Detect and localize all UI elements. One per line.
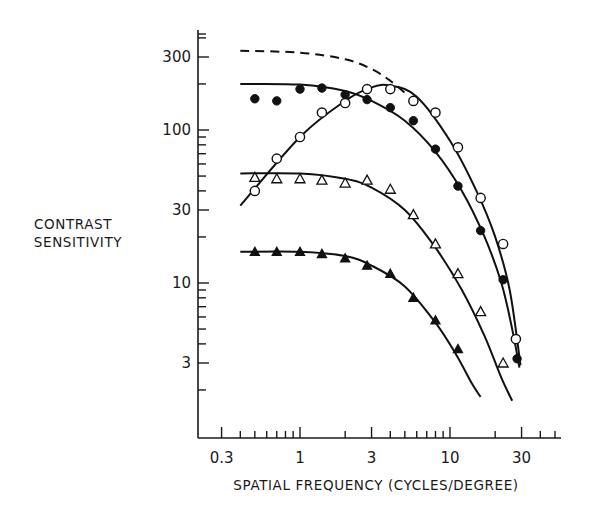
x-tick-label: 10 [440,449,459,467]
open-circle-marker [476,193,485,202]
y-tick-labels: 31030100300 [162,48,191,372]
open-circle-marker [511,334,520,343]
x-tick-label: 0.3 [210,449,234,467]
filled-circle-marker [251,95,259,103]
open-triangle-marker [385,184,395,193]
open-triangle-marker [362,175,372,184]
open-circle-marker [409,96,418,105]
open-triangle-marker [498,358,508,367]
open-triangle-marker [272,174,282,183]
filled-circle-marker [499,276,507,284]
filled-circle-marker [273,97,281,105]
open-circle-marker [250,186,259,195]
open-triangle-marker [476,307,486,316]
open-circle-marker [295,132,304,141]
open-circle-marker [453,143,462,152]
x-tick-labels: 0.3131030 [210,449,531,467]
x-axis-title: SPATIAL FREQUENCY (CYCLES/DEGREE) [233,477,518,493]
filled-circle-marker [409,117,417,125]
x-tick-label: 3 [367,449,377,467]
filled-circle-marker [386,103,394,111]
y-tick-label: 100 [162,121,191,139]
filled-circles-curve [240,84,519,368]
filled-circle-marker [341,91,349,99]
contrast-sensitivity-chart: 31030100300 0.3131030 CONTRAST SENSITIVI… [0,0,601,515]
y-axis-title-line1: CONTRAST [34,216,112,232]
axes [198,30,561,438]
y-tick-label: 10 [172,274,191,292]
open-circle-marker [362,85,371,94]
filled-circle-marker [454,182,462,190]
open-circle-marker [431,108,440,117]
open-circle-marker [499,239,508,248]
open-triangle-marker [453,269,463,278]
y-tick-label: 30 [172,201,191,219]
y-tick-label: 300 [162,48,191,66]
open-circle-marker [317,108,326,117]
x-tick-label: 30 [512,449,531,467]
y-tick-label: 3 [181,354,191,372]
fit-curves [240,51,520,401]
filled-circle-marker [431,145,439,153]
filled-circle-marker [513,355,521,363]
filled-circle-marker [363,95,371,103]
open-circle-marker [272,154,281,163]
filled-circle-marker [476,226,484,234]
filled-circle-marker [318,84,326,92]
x-axis-ticks [222,427,555,438]
open-circle-marker [386,85,395,94]
x-tick-label: 1 [295,449,305,467]
filled-triangles-curve [240,251,480,396]
open-circle-marker [341,98,350,107]
open-triangle-marker [295,174,305,183]
filled-circle-marker [296,85,304,93]
filled-triangle-marker [453,345,462,353]
y-axis-ticks [198,34,209,390]
y-axis-title-line2: SENSITIVITY [34,234,122,250]
